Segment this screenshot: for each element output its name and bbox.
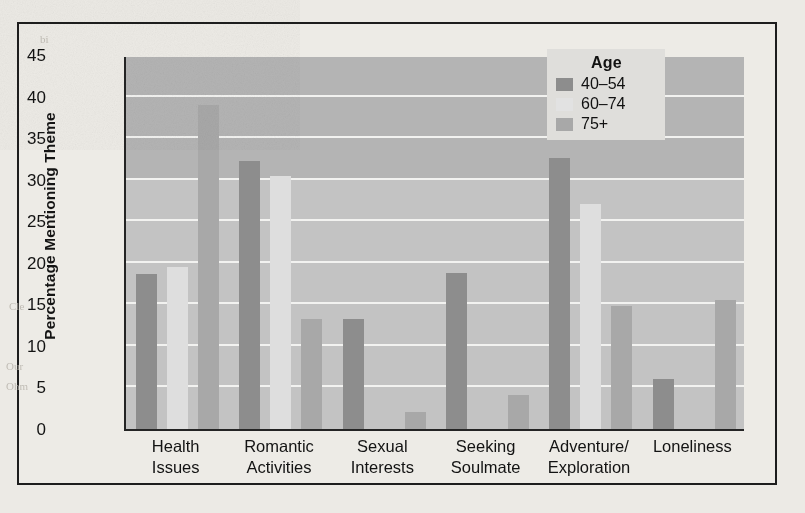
bar bbox=[343, 319, 364, 429]
x-axis-tick-label-line: Adventure/ bbox=[529, 436, 648, 457]
x-axis-tick-label: SexualInterests bbox=[323, 436, 442, 478]
legend-swatch bbox=[556, 118, 573, 131]
x-axis-tick-label-line: Soulmate bbox=[426, 457, 545, 478]
x-axis-tick-label-line: Romantic bbox=[219, 436, 338, 457]
legend-title: Age bbox=[556, 54, 657, 72]
bar bbox=[653, 379, 674, 429]
bar bbox=[508, 395, 529, 429]
x-axis-tick-label-line: Loneliness bbox=[633, 436, 752, 457]
bar bbox=[270, 176, 291, 429]
legend-entry: 75+ bbox=[556, 115, 657, 133]
y-axis-tick-label: 30 bbox=[2, 171, 46, 191]
bar bbox=[611, 306, 632, 429]
y-axis-tick-label: 15 bbox=[2, 295, 46, 315]
y-axis-tick-label: 45 bbox=[2, 46, 46, 66]
legend: Age 40–5460–7475+ bbox=[547, 49, 665, 140]
legend-entries: 40–5460–7475+ bbox=[556, 75, 657, 133]
bar bbox=[715, 300, 736, 429]
x-axis-tick-label-line: Issues bbox=[116, 457, 235, 478]
x-axis-tick-label-line: Seeking bbox=[426, 436, 545, 457]
bar bbox=[405, 412, 426, 429]
y-axis-tick-label: 5 bbox=[2, 378, 46, 398]
legend-entry: 60–74 bbox=[556, 95, 657, 113]
bar bbox=[136, 274, 157, 429]
bar bbox=[446, 273, 467, 429]
bar-group bbox=[436, 57, 539, 429]
bar-chart: Percentage Mentioning Theme 051015202530… bbox=[17, 22, 777, 485]
x-axis-tick-label: Adventure/Exploration bbox=[529, 436, 648, 478]
legend-swatch bbox=[556, 98, 573, 111]
bar bbox=[239, 161, 260, 429]
x-axis-tick-label-line: Health bbox=[116, 436, 235, 457]
bar bbox=[167, 267, 188, 429]
y-axis-tick-label: 35 bbox=[2, 129, 46, 149]
x-axis-tick-label-line: Activities bbox=[219, 457, 338, 478]
y-axis-tick-label: 10 bbox=[2, 337, 46, 357]
bar bbox=[549, 158, 570, 429]
legend-label: 40–54 bbox=[581, 75, 626, 93]
y-axis-tick-label: 0 bbox=[2, 420, 46, 440]
x-axis-tick-label: Loneliness bbox=[633, 436, 752, 457]
y-axis-tick-label: 25 bbox=[2, 212, 46, 232]
legend-entry: 40–54 bbox=[556, 75, 657, 93]
bar bbox=[198, 105, 219, 429]
x-axis-tick-label-line: Exploration bbox=[529, 457, 648, 478]
y-axis-tick-label: 20 bbox=[2, 254, 46, 274]
x-axis-tick-label-line: Sexual bbox=[323, 436, 442, 457]
legend-label: 60–74 bbox=[581, 95, 626, 113]
bar bbox=[580, 204, 601, 429]
bar-group bbox=[333, 57, 436, 429]
x-axis-tick-label: RomanticActivities bbox=[219, 436, 338, 478]
bar-group bbox=[126, 57, 229, 429]
bar bbox=[301, 319, 322, 429]
x-axis-tick-label: HealthIssues bbox=[116, 436, 235, 478]
y-axis-tick-label: 40 bbox=[2, 88, 46, 108]
x-axis-tick-label-line: Interests bbox=[323, 457, 442, 478]
bar-group bbox=[229, 57, 332, 429]
x-axis-tick-label: SeekingSoulmate bbox=[426, 436, 545, 478]
legend-swatch bbox=[556, 78, 573, 91]
legend-label: 75+ bbox=[581, 115, 608, 133]
